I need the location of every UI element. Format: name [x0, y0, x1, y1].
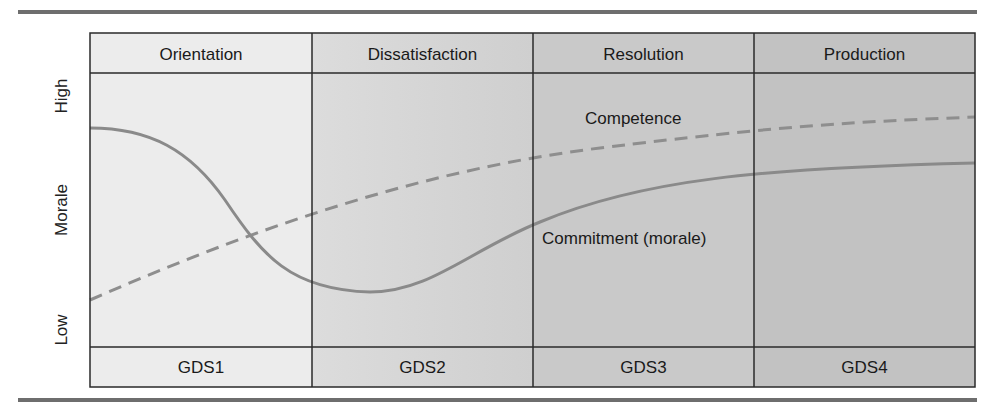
- y-axis-low-label: Low: [52, 290, 72, 370]
- bottom-rule: [18, 398, 977, 402]
- stage-header-dissatisfaction: Dissatisfaction: [312, 45, 533, 65]
- stage-column-production: [754, 33, 975, 387]
- stage-footer-gds3: GDS3: [533, 358, 754, 378]
- stage-column-resolution: [533, 33, 754, 387]
- stage-footer-gds2: GDS2: [312, 358, 533, 378]
- stage-column-orientation: [90, 33, 312, 387]
- competence-label: Competence: [585, 109, 681, 129]
- stage-footer-gds4: GDS4: [754, 358, 975, 378]
- stage-header-resolution: Resolution: [533, 45, 754, 65]
- commitment-label: Commitment (morale): [542, 229, 706, 249]
- y-axis-high-label: High: [52, 56, 72, 136]
- y-axis-title: Morale: [52, 170, 72, 250]
- stage-header-orientation: Orientation: [90, 45, 312, 65]
- stage-footer-gds1: GDS1: [90, 358, 312, 378]
- stage-header-production: Production: [754, 45, 975, 65]
- dissatisfaction-shading: [312, 33, 533, 387]
